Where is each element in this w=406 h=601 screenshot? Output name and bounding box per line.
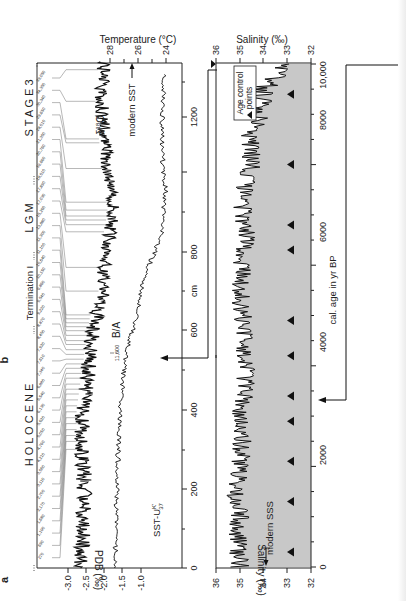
svg-text:35: 35 [235, 45, 245, 55]
sst-curve [113, 74, 168, 568]
temp-tick-labels: 28 26 24 [105, 45, 171, 55]
svg-text:690: 690 [37, 539, 45, 548]
svg-text:2000: 2000 [318, 445, 328, 465]
depth-ticks [182, 82, 187, 568]
svg-text:36: 36 [211, 578, 221, 588]
temp-axis-title: Temperature (°C) [100, 34, 177, 45]
salinity-area [227, 64, 311, 567]
svg-text:-2.5: -2.5 [81, 575, 91, 591]
svg-text:6000: 6000 [318, 222, 328, 242]
age-axis-title: cal. age in yr BP [327, 255, 338, 324]
stage-label-holocene: H O L O C E N E [23, 384, 35, 467]
depth-axis-title: cm [189, 285, 199, 297]
legend-text-line2: points [244, 87, 254, 110]
svg-text:26: 26 [133, 45, 143, 55]
svg-text:8000: 8000 [318, 110, 328, 130]
svg-text:4000: 4000 [318, 332, 328, 352]
legend: Age control points [234, 66, 256, 120]
svg-text:32: 32 [306, 578, 316, 588]
stage-label-stage3: S T A G E 3 [23, 79, 35, 136]
svg-text:10,000: 10,000 [318, 61, 328, 89]
svg-text:32: 32 [306, 45, 316, 55]
panel-b: 36 35 34 33 32 Salinity (‰) 36 35 34 33 … [0, 34, 338, 596]
svg-text:1200: 1200 [189, 107, 199, 127]
svg-text:200: 200 [189, 481, 199, 496]
svg-text:0: 0 [189, 565, 199, 570]
svg-text:-3.0: -3.0 [63, 575, 73, 591]
sst-uk37-label: SST-UK'37 [151, 502, 164, 536]
svg-text:24: 24 [161, 45, 171, 55]
svg-text:36: 36 [211, 45, 221, 55]
svg-text:0: 0 [318, 564, 328, 569]
svg-text:33: 33 [282, 45, 292, 55]
svg-text:-1.0: -1.0 [136, 575, 146, 591]
svg-text:35: 35 [235, 578, 245, 588]
svg-text:800: 800 [189, 244, 199, 259]
modern-sst-label: modern SST [126, 83, 137, 137]
svg-text:34: 34 [258, 45, 268, 55]
svg-text:33: 33 [282, 578, 292, 588]
panel-b-label: b [0, 356, 10, 363]
age-ticks [311, 64, 316, 567]
figure: H O L O C E N E Termination I L G M S T … [0, 0, 406, 601]
salinity-top-title: Salinity (‰) [236, 34, 288, 45]
stage-label-lgm: L G M [23, 203, 35, 233]
modern-sss-label: modern SSS [264, 501, 275, 555]
age-11600-label: 11,600 [114, 345, 120, 361]
page-edge-shadow [398, 0, 406, 601]
temp-ticks [110, 58, 166, 63]
svg-text:400: 400 [189, 402, 199, 417]
stage-label-termination: Termination I [24, 266, 35, 320]
age-tie-labels: 39,05034,35030,34029,65028,01021,35020,7… [35, 69, 47, 560]
svg-text:270: 270 [37, 551, 45, 560]
depth-tick-labels: 0 200 400 600 800 1200 cm [189, 107, 199, 571]
ba-label: B/A [111, 322, 122, 338]
pdb-axis-title: PDB (‰) [93, 550, 104, 590]
salinity-top-ticks [216, 58, 311, 63]
svg-text:-1.5: -1.5 [117, 575, 127, 591]
panel-a-label: a [0, 576, 10, 583]
salinity-top-labels: 36 35 34 33 32 [211, 45, 316, 55]
svg-text:28: 28 [105, 45, 115, 55]
panel-a: H O L O C E N E Termination I L G M S T … [0, 34, 199, 591]
svg-text:600: 600 [189, 322, 199, 337]
